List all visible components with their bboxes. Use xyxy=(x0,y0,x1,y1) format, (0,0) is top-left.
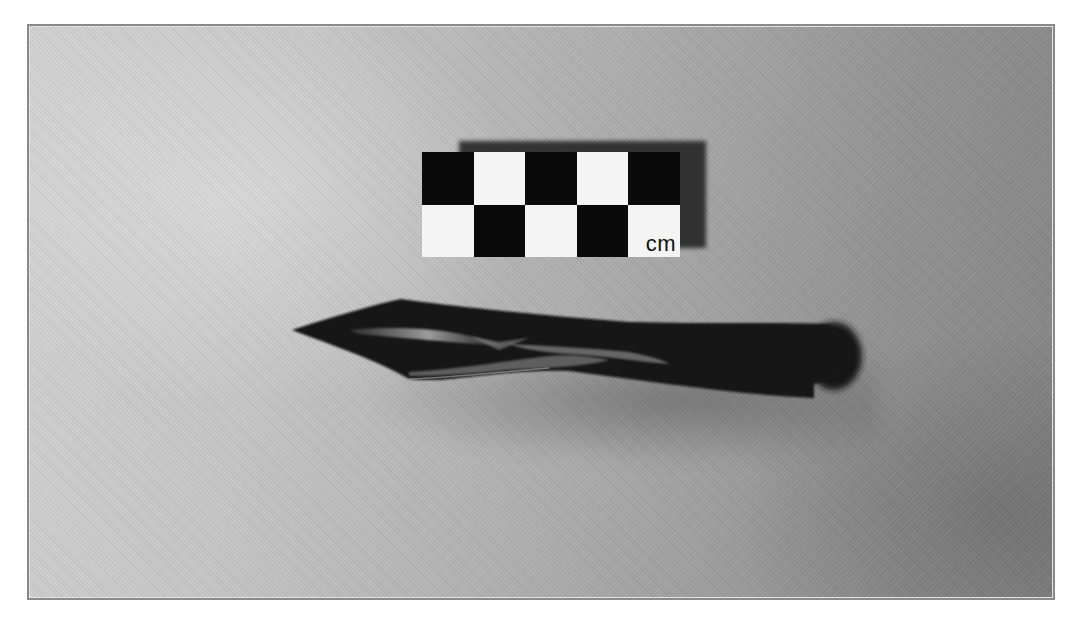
photograph: cm xyxy=(27,24,1055,600)
projectile-point-artifact xyxy=(29,26,1055,600)
